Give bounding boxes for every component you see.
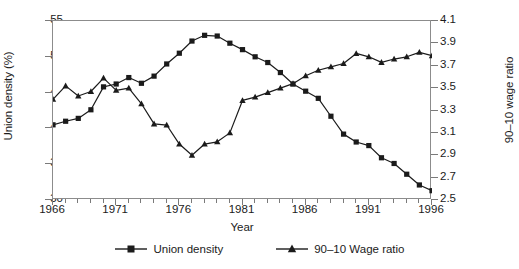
y-axis-left-tickmark [45,56,52,57]
plot-area [52,20,431,199]
data-point-triangle [214,139,220,145]
y-axis-right-tickmark [431,132,438,133]
data-point-square [189,38,194,43]
legend-label-wage-ratio: 90–10 Wage ratio [314,243,404,255]
y-axis-right-tick-3.5: 3.5 [440,80,480,92]
data-point-square [63,119,68,124]
y-axis-left-tickmark [45,163,52,164]
series-union-density [53,33,432,194]
legend-item-union-density: Union density [114,243,223,255]
chart-legend: Union density 90–10 Wage ratio [0,243,519,255]
y-axis-right-tickmark [431,177,438,178]
y-axis-left-tickmark [45,199,52,200]
legend-label-union-density: Union density [153,243,223,255]
legend-item-wage-ratio: 90–10 Wage ratio [275,243,404,255]
series-line [53,35,432,190]
series-90-10-wage-ratio [53,49,432,158]
x-axis-title: Year [0,221,484,233]
data-point-square [177,51,182,56]
data-point-square [429,188,432,193]
data-point-square [101,84,106,89]
y-axis-left-tickmark [45,92,52,93]
data-point-triangle [353,50,359,56]
y-axis-right-tick-3.1: 3.1 [440,125,480,137]
y-axis-right-tickmark [431,199,438,200]
y-axis-right-tick-3.3: 3.3 [440,103,480,115]
data-point-square [126,75,131,80]
data-point-square [151,74,156,79]
data-point-triangle [227,130,233,136]
data-point-square [227,41,232,46]
data-point-square [139,81,144,86]
data-point-square [341,132,346,137]
data-point-triangle [416,49,422,55]
series-line [53,52,432,155]
y-axis-left-tickmark [45,127,52,128]
data-point-square [215,33,220,38]
data-point-square [366,143,371,148]
data-point-square [76,116,81,121]
y-axis-right-tickmark [431,87,438,88]
data-point-square [404,172,409,177]
y-axis-right-tick-2.7: 2.7 [440,170,480,182]
data-point-triangle [100,75,106,81]
data-point-triangle [62,83,68,89]
y-axis-right-tickmark [431,65,438,66]
data-point-square [53,122,56,127]
data-point-square [392,161,397,166]
y-axis-right-tickmark [431,110,438,111]
data-point-square [278,70,283,75]
plot-lines-svg [53,21,432,200]
y-axis-right-tick-4.1: 4.1 [440,13,480,25]
data-point-square [253,54,258,59]
y-axis-right-tick-3.7: 3.7 [440,58,480,70]
data-point-square [354,139,359,144]
square-marker-icon [114,243,148,255]
y-axis-right-title: 90–10 wage ratio [503,0,519,200]
y-axis-right-tickmark [431,154,438,155]
data-point-square [328,114,333,119]
y-axis-right-tick-3.9: 3.9 [440,35,480,47]
data-point-square [379,155,384,160]
data-point-square [417,182,422,187]
data-point-square [240,47,245,52]
y-axis-left-title: Union density (%) [2,0,18,196]
data-point-square [316,96,321,101]
data-point-square [114,81,119,86]
data-point-square [303,89,308,94]
data-point-square [88,107,93,112]
chart-figure: Union density (%) 90–10 wage ratio Year … [0,0,519,269]
data-point-square [265,60,270,65]
y-axis-right-tickmark [431,42,438,43]
y-axis-left-tickmark [45,20,52,21]
data-point-square [164,61,169,66]
triangle-marker-icon [275,243,309,255]
y-axis-right-tick-2.9: 2.9 [440,147,480,159]
data-point-square [202,33,207,38]
data-point-triangle [126,85,132,91]
y-axis-right-tickmark [431,20,438,21]
